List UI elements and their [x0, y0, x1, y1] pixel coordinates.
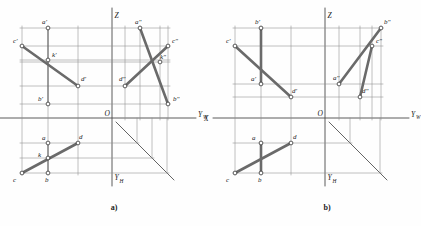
point-label-b-a-plan: a [252, 134, 256, 142]
point-b-d-plan[interactable] [289, 141, 293, 145]
point-label-b-c-double-prime: c" [376, 37, 382, 45]
point-label-a-k-prime: k' [52, 51, 57, 59]
origin-label: O [105, 109, 111, 118]
point-label-a-b-prime: b' [38, 95, 44, 103]
axis-label-yw: YW [411, 110, 421, 121]
thick-edge-b-cd-frontal [235, 46, 291, 97]
point-label-b-c-prime: c' [226, 37, 231, 45]
point-label-a-a-double-prime: a" [135, 18, 142, 26]
point-label-a-d-double-prime: d" [119, 75, 126, 83]
axis-label-yw-sub: W [416, 114, 421, 120]
axis-label-x: X [203, 114, 209, 123]
point-label-b-c-plan: c [226, 176, 230, 184]
point-label-b-a-double-prime: a" [333, 74, 340, 82]
point-label-a-b-double-prime: b" [173, 95, 180, 103]
point-b-d-prime[interactable] [289, 95, 293, 99]
point-b-c-double-prime[interactable] [370, 44, 374, 48]
caption-b: b) [323, 203, 330, 212]
point-label-a-c-prime: c' [13, 37, 18, 45]
point-label-a-d-plan: d [79, 133, 83, 141]
figure-root: XZYWYHOa'c'k'd'b'a"c"k"d"b"adkbca)XZYWYH… [0, 0, 421, 226]
point-label-b-d-prime: d' [292, 87, 298, 95]
point-label-b-d-double-prime: d" [362, 87, 369, 95]
bisector-45 [116, 122, 174, 180]
point-a-k-prime[interactable] [46, 58, 50, 62]
point-b-c-plan[interactable] [233, 171, 237, 175]
point-a-k-plan[interactable] [46, 156, 50, 160]
origin-label: O [318, 109, 324, 118]
point-a-c-plan[interactable] [20, 171, 24, 175]
projection-figure-canvas: XZYWYHOa'c'k'd'b'a"c"k"d"b"adkbca)XZYWYH… [0, 0, 421, 226]
point-b-b-double-prime[interactable] [379, 26, 383, 30]
point-a-d-prime[interactable] [76, 84, 80, 88]
point-label-a-a-plan: a [42, 134, 46, 142]
axis-label-yh-sub: H [332, 178, 338, 184]
point-label-a-c-double-prime: c" [172, 37, 178, 45]
thick-edge-a-cd-profile [125, 46, 168, 86]
bisector-45 [329, 122, 387, 180]
point-label-b-d-plan: d [293, 133, 297, 141]
point-label-b-b-plan: b [258, 176, 262, 184]
point-label-a-c-plan: c [13, 176, 17, 184]
point-a-d-double-prime[interactable] [123, 84, 127, 88]
point-a-a-double-prime[interactable] [138, 26, 142, 30]
point-a-a-plan[interactable] [46, 141, 50, 145]
point-b-a-plan[interactable] [259, 141, 263, 145]
axis-label-yh-sub: H [119, 178, 125, 184]
point-b-b-plan[interactable] [259, 171, 263, 175]
diagram-b: XZYWYHOb'c'a'd'b"c"a"d"adbcb) [203, 8, 421, 212]
point-a-d-plan[interactable] [76, 141, 80, 145]
point-a-b-plan[interactable] [46, 171, 50, 175]
point-a-b-prime[interactable] [46, 102, 50, 106]
point-a-c-prime[interactable] [20, 44, 24, 48]
point-b-d-double-prime[interactable] [358, 95, 362, 99]
axis-label-yh: YH [115, 173, 125, 184]
point-label-a-b-plan: b [45, 176, 49, 184]
point-label-b-b-prime: b' [255, 18, 261, 26]
point-b-a-prime[interactable] [259, 82, 263, 86]
point-a-c-double-prime[interactable] [166, 44, 170, 48]
axis-label-z: Z [328, 11, 333, 20]
axis-label-z: Z [115, 11, 120, 20]
point-label-a-k-double-prime: k" [160, 53, 166, 61]
point-label-a-a-prime: a' [42, 18, 48, 26]
thick-edge-a-cd-frontal [22, 46, 78, 86]
axis-label-yh: YH [328, 173, 338, 184]
point-b-a-double-prime[interactable] [337, 82, 341, 86]
point-b-c-prime[interactable] [233, 44, 237, 48]
point-label-b-a-prime: a' [251, 75, 257, 83]
point-b-b-prime[interactable] [259, 26, 263, 30]
point-label-a-d-prime: d' [81, 75, 87, 83]
thick-edge-b-cd-plan [235, 143, 291, 173]
point-a-a-prime[interactable] [46, 26, 50, 30]
caption-a: a) [111, 203, 118, 212]
point-a-b-double-prime[interactable] [166, 102, 170, 106]
diagram-a: XZYWYHOa'c'k'd'b'a"c"k"d"b"adkbca) [0, 8, 208, 212]
point-label-b-b-double-prime: b" [384, 18, 391, 26]
thick-edge-a-ab-profile [140, 28, 168, 104]
